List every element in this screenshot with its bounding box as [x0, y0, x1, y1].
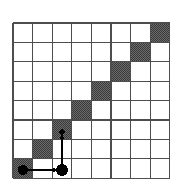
shaded-cell-1-6 — [33, 139, 53, 158]
dot-up-tip — [59, 129, 64, 134]
shaded-cell-6-1 — [131, 42, 151, 61]
shaded-cell-4-3 — [91, 81, 111, 100]
grid-diagram-svg — [0, 0, 186, 185]
dot-origin — [18, 165, 28, 175]
diagram-canvas — [0, 0, 186, 185]
shaded-cell-7-0 — [150, 23, 170, 42]
dot-right — [56, 164, 68, 176]
shaded-cell-5-2 — [111, 62, 131, 81]
shaded-cell-3-4 — [72, 101, 92, 120]
